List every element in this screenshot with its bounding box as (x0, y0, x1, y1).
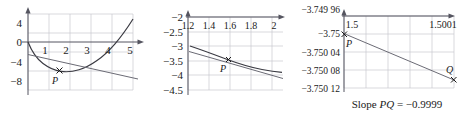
panel-2-point-p-label: P (219, 63, 226, 74)
panel-3-secant-pq (345, 34, 454, 80)
panel-1-xtick-2: 3 (84, 44, 90, 56)
caption-symbol: PQ (378, 98, 394, 110)
panel-2-ytick-3: −3.5 (163, 55, 183, 67)
panel-2-xtick-2: 1.6 (224, 20, 237, 31)
panel-1-ytick-2: −4 (10, 56, 22, 68)
panel-1-xtick-3: 4 (105, 44, 111, 56)
panel-1-ytick-1: 0 (17, 36, 23, 48)
panel-1-ytick-3: −8 (10, 75, 22, 87)
panel-3-caption: Slope PQ = −0.9999 (352, 98, 443, 110)
panel-2-ytick-5: −4.5 (163, 84, 183, 96)
panel-3-point-p-label: P (345, 38, 352, 49)
panel-3-ytick-0: −3.749 96 (301, 5, 340, 15)
caption-prefix: Slope (352, 98, 380, 110)
panel-3-ytick-3: −3.750 08 (301, 66, 340, 76)
panel-1-ytick-0: 4 (17, 17, 23, 29)
panel-2-ytick-4: −4 (171, 69, 183, 81)
panel-medium-zoom: P 1.2 1.4 1.6 1.8 2 −2 −2.5 −3 −3.5 −4 −… (150, 0, 300, 115)
panel-3-ytick-2: −3.750 04 (301, 48, 340, 58)
panel-3-xtick-0: 1.5 (346, 19, 359, 30)
panel-3-ytick-1: −3.75 (318, 29, 340, 39)
panel-2-ytick-0: −2 (171, 11, 183, 23)
panel-2-xtick-4: 2 (272, 20, 277, 31)
secant-slope-figure: P 1 2 3 4 5 4 0 −4 −8 (0, 0, 468, 115)
panel-2-curve (190, 46, 282, 72)
panel-3-point-q-label: Q (446, 64, 454, 75)
panel-1-xtick-0: 1 (42, 44, 48, 56)
panel-2-plot: P 1.2 1.4 1.6 1.8 2 −2 −2.5 −3 −3.5 −4 −… (150, 0, 300, 115)
panel-3-xtick-1: 1.5001 (429, 19, 457, 30)
panel-2-xtick-0: 1.2 (182, 20, 195, 31)
panel-extreme-zoom: P Q 1.5 1.5001 −3.749 96 −3.75 −3.750 04… (300, 0, 468, 115)
panel-1-plot: P 1 2 3 4 5 4 0 −4 −8 (0, 0, 150, 115)
panel-wide-view: P 1 2 3 4 5 4 0 −4 −8 (0, 0, 150, 115)
panel-3-ytick-4: −3.750 12 (301, 84, 340, 94)
panel-1-point-p-label: P (51, 75, 58, 86)
caption-value: −0.9999 (406, 98, 443, 110)
panel-1-secant (28, 55, 138, 80)
panel-2-xtick-3: 1.8 (245, 20, 258, 31)
caption-equals: = (394, 98, 406, 110)
panel-1-axes (22, 7, 144, 95)
panel-2-ytick-1: −2.5 (163, 26, 183, 38)
panel-1-xtick-4: 5 (127, 44, 133, 56)
panel-3-plot: P Q 1.5 1.5001 −3.749 96 −3.75 −3.750 04… (300, 0, 468, 115)
panel-2-secant (189, 52, 283, 79)
panel-2-xtick-1: 1.4 (203, 20, 216, 31)
panel-1-xtick-1: 2 (63, 44, 69, 56)
panel-2-ytick-2: −3 (171, 40, 183, 52)
